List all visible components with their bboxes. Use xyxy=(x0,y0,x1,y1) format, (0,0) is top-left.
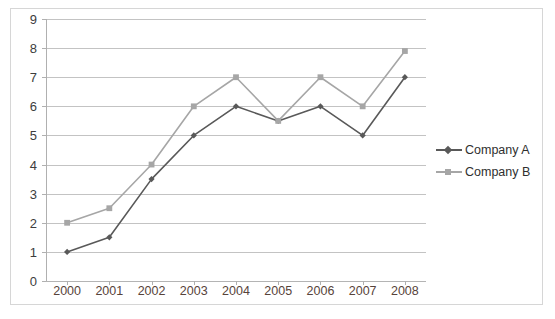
data-point-square-icon xyxy=(360,103,366,109)
y-axis-tick-label: 9 xyxy=(30,13,37,26)
y-axis-tick-label: 6 xyxy=(30,100,37,113)
x-axis-tick-label: 2007 xyxy=(349,285,377,298)
data-point-square-icon xyxy=(149,162,155,168)
y-axis-tick-label: 3 xyxy=(30,187,37,200)
data-point-square-icon xyxy=(318,74,324,80)
legend-item-company-a[interactable]: Company A xyxy=(436,139,541,161)
legend-marker-square-icon xyxy=(436,166,462,178)
plot-area xyxy=(46,19,426,281)
series-layer xyxy=(46,19,426,281)
data-point-square-icon xyxy=(402,48,408,54)
x-axis-tick-label: 2005 xyxy=(264,285,292,298)
y-tick-mark xyxy=(42,281,46,282)
data-point-square-icon xyxy=(106,205,112,211)
legend-square-icon xyxy=(445,169,451,175)
legend-label-company-b: Company B xyxy=(465,166,530,179)
x-axis-tick-label: 2003 xyxy=(180,285,208,298)
data-point-square-icon xyxy=(191,103,197,109)
legend-label-company-a: Company A xyxy=(465,144,530,157)
legend-item-company-b[interactable]: Company B xyxy=(436,161,541,183)
x-axis-tick-label: 2004 xyxy=(222,285,250,298)
y-axis-tick-label: 1 xyxy=(30,245,37,258)
x-axis-tick-label: 2000 xyxy=(53,285,81,298)
y-axis-tick-label: 4 xyxy=(30,158,37,171)
y-axis-tick-label: 5 xyxy=(30,129,37,142)
y-axis-tick-label: 2 xyxy=(30,216,37,229)
x-axis-labels: 200020012002200320042005200620072008 xyxy=(46,285,426,307)
data-point-square-icon xyxy=(233,74,239,80)
x-axis-tick-label: 2001 xyxy=(95,285,123,298)
y-axis-tick-label: 8 xyxy=(30,42,37,55)
x-axis-tick-label: 2002 xyxy=(138,285,166,298)
x-axis-tick-label: 2008 xyxy=(391,285,419,298)
y-axis-tick-label: 0 xyxy=(30,275,37,288)
y-axis-tick-label: 7 xyxy=(30,71,37,84)
x-axis-tick-label: 2006 xyxy=(307,285,335,298)
series-company-b xyxy=(64,48,408,226)
data-point-square-icon xyxy=(64,220,70,226)
data-point-square-icon xyxy=(275,118,281,124)
chart-frame: 0123456789 20002001200220032004200520062… xyxy=(10,8,543,305)
data-point-diamond-icon xyxy=(64,249,70,255)
chart-legend: Company A Company B xyxy=(436,139,541,183)
legend-diamond-icon xyxy=(444,146,452,154)
legend-marker-diamond-icon xyxy=(436,144,462,156)
y-axis-labels: 0123456789 xyxy=(11,19,44,281)
